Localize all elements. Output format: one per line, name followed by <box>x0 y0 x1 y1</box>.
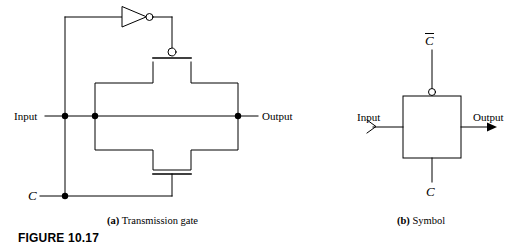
figure-number-label: FIGURE 10.17 <box>18 232 99 244</box>
output-node-dot <box>235 113 241 119</box>
control-top-overbar-text: C <box>425 33 434 47</box>
symbol-control-bubble-icon <box>429 89 436 96</box>
panel-b-caption-text: Symbol <box>412 215 445 226</box>
inverter-bubble-icon <box>146 14 153 21</box>
panel-a-input-label: Input <box>14 111 37 122</box>
panel-a-caption-text: Transmission gate <box>122 215 198 226</box>
panel-b-output-label: Output <box>473 112 504 123</box>
panel-a-control-label: C <box>28 189 37 202</box>
nmos-channel-body <box>95 116 238 170</box>
panel-a-caption: (a) Transmission gate <box>107 216 198 227</box>
symbol-output-arrowhead-icon <box>487 123 497 132</box>
panel-a-transmission-gate <box>40 7 258 199</box>
input-branch-node-dot <box>92 113 98 119</box>
panel-a-caption-tag: (a) <box>107 215 119 226</box>
figure-10-17: Input Output C Input Output C C (a) Tran… <box>0 0 522 248</box>
panel-b-control-top-label: C <box>425 33 434 47</box>
panel-b-caption: (b) Symbol <box>397 216 445 227</box>
inverter-icon <box>122 7 146 27</box>
symbol-box <box>403 96 461 158</box>
panel-b-caption-tag: (b) <box>397 215 410 226</box>
circuit-drawing <box>0 0 522 248</box>
control-node-dot <box>62 193 68 199</box>
input-node-dot <box>62 113 68 119</box>
pmos-channel-body <box>95 62 238 116</box>
panel-b-control-bottom-label: C <box>426 185 435 198</box>
panel-b-input-label: Input <box>357 112 380 123</box>
pmos-gate-bubble-icon <box>168 48 176 56</box>
panel-a-output-label: Output <box>262 111 293 122</box>
